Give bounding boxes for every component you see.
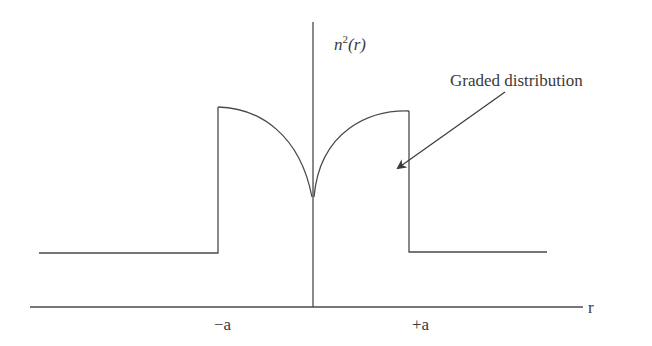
graded-distribution-label: Graded distribution <box>450 71 583 90</box>
tick-plus-a: +a <box>412 315 430 334</box>
graded-core-right-curve <box>314 111 409 197</box>
annotation-arrow <box>398 92 505 168</box>
left-cladding-level <box>39 107 218 253</box>
tick-minus-a: −a <box>214 315 232 334</box>
r-axis-label: r <box>588 298 594 317</box>
graded-core-left-curve <box>218 107 312 197</box>
right-cladding-level <box>409 111 547 252</box>
graded-index-profile-diagram: r n2(r) −a +a Graded distribution <box>0 0 652 346</box>
n-axis-label: n2(r) <box>334 33 366 54</box>
